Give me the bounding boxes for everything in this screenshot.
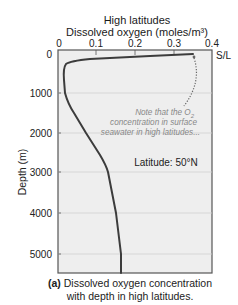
y-tick-1000: 1000 bbox=[30, 88, 53, 99]
caption-line-1: Dissolved oxygen concentration bbox=[61, 277, 212, 289]
x-tick-0.2: 0.2 bbox=[128, 38, 142, 49]
y-tick-0: 0 bbox=[46, 49, 52, 60]
x-tick-0.3: 0.3 bbox=[167, 38, 181, 49]
note-line-2: concentration in surface bbox=[110, 118, 197, 127]
y-axis-label: Depth (m) bbox=[16, 149, 28, 196]
latitude-label: Latitude: 50°N bbox=[134, 157, 198, 168]
y-tick-4000: 4000 bbox=[30, 208, 53, 219]
x-tick-0.1: 0.1 bbox=[89, 38, 103, 49]
figure-caption: (a) Dissolved oxygen concentration with … bbox=[30, 277, 230, 302]
caption-label: (a) bbox=[48, 277, 61, 289]
y-tick-5000: 5000 bbox=[30, 249, 53, 260]
y-tick-3000: 3000 bbox=[30, 167, 53, 178]
x-tick-0.4: 0.4 bbox=[205, 38, 219, 49]
oxygen-depth-chart: 0 0.1 0.2 0.3 0.4 S/L 0 1000 2000 3000 4… bbox=[0, 0, 238, 305]
sea-level-label: S/L bbox=[216, 50, 231, 61]
caption-line-2: with depth in high latitudes. bbox=[67, 290, 194, 302]
note-line-3: seawater in high latitudes... bbox=[101, 128, 200, 137]
y-tick-2000: 2000 bbox=[30, 128, 53, 139]
x-tick-0: 0 bbox=[56, 38, 62, 49]
arrow-head-dot bbox=[193, 56, 196, 59]
